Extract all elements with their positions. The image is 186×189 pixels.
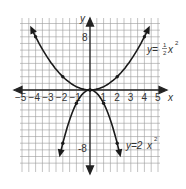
svg-text:x: x [146,140,153,151]
data-point [61,142,64,145]
svg-text:x: x [167,44,174,55]
svg-text:1: 1 [163,42,167,48]
data-point [143,35,146,38]
y-axis-up-arrow-icon [87,18,94,26]
svg-text:y=: y= [146,44,158,55]
y-tick-8: 8 [82,32,88,43]
data-point [61,75,64,78]
x-tick-label: 3 [128,92,134,103]
x-axis-label: x [167,92,174,103]
x-tick-label: −3 [42,92,54,103]
x-tick-label: 5 [155,92,161,103]
svg-text:2: 2 [163,50,167,56]
data-point [34,35,37,38]
x-tick-label: −5 [15,92,27,103]
data-point [116,75,119,78]
svg-text:2: 2 [154,136,158,142]
y-axis-down-arrow-icon [87,166,94,174]
y-tick-neg8: -8 [78,143,87,154]
svg-text:2: 2 [175,40,179,46]
x-tick-label: 2 [114,92,120,103]
data-point [88,88,91,91]
data-point [75,102,78,105]
data-point [102,102,105,105]
data-point [116,142,119,145]
parabola-graph: −5−4−3−2−112345 x y 8 -8 y= 1 2 x 2 y=2 … [0,0,186,189]
x-tick-label: 4 [141,92,147,103]
y-axis-label: y [79,13,86,24]
x-tick-label: −2 [56,92,68,103]
x-tick-label: 1 [101,92,107,103]
x-tick-labels: −5−4−3−2−112345 [15,92,161,103]
x-tick-label: −4 [29,92,41,103]
svg-text:y=2: y=2 [125,140,143,151]
